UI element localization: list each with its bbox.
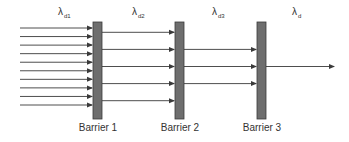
incident-arrows xyxy=(20,28,92,105)
transmitted-arrows-1 xyxy=(102,32,174,100)
region-label-3: λd3 xyxy=(212,7,225,19)
barrier-2-label: Barrier 2 xyxy=(150,123,210,133)
barrier-2 xyxy=(175,22,184,119)
barrier-3 xyxy=(257,22,266,119)
barrier-diagram: λd1 λd2 λd3 λd Barrier 1 Barrier 2 Barri… xyxy=(0,0,349,142)
lambda-subscript: d xyxy=(298,13,301,19)
region-label-2: λd2 xyxy=(132,7,145,19)
lambda-symbol: λ xyxy=(58,6,63,17)
lambda-subscript: d1 xyxy=(64,13,71,19)
lambda-subscript: d2 xyxy=(138,13,145,19)
barrier-1 xyxy=(93,22,102,119)
lambda-symbol: λ xyxy=(292,6,297,17)
barrier-1-label: Barrier 1 xyxy=(68,123,128,133)
lambda-symbol: λ xyxy=(132,6,137,17)
diagram-canvas xyxy=(0,0,349,142)
lambda-symbol: λ xyxy=(212,6,217,17)
barrier-3-label: Barrier 3 xyxy=(232,123,292,133)
transmitted-arrows-2 xyxy=(184,49,256,83)
region-label-4: λd xyxy=(292,7,301,19)
region-label-1: λd1 xyxy=(58,7,71,19)
lambda-subscript: d3 xyxy=(218,13,225,19)
